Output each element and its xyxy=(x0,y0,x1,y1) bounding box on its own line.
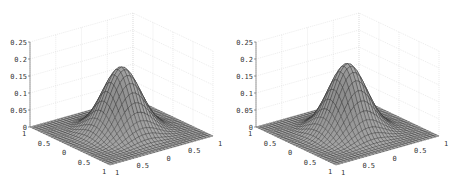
z-tick-label: 0.25 xyxy=(236,39,253,47)
y-tick-label: 1 xyxy=(218,140,222,148)
surface-plot-right: 00.050.10.150.20.2510.500.5110.500.51 xyxy=(226,0,452,184)
y-tick-label: 0.5 xyxy=(188,147,201,155)
x-tick-label: 1 xyxy=(22,130,26,138)
z-tick-label: 0.2 xyxy=(14,56,27,64)
z-tick-label: 0.1 xyxy=(240,90,253,98)
x-tick-label: 0.5 xyxy=(78,159,91,167)
x-tick-label: 0 xyxy=(62,149,66,157)
surface-mesh xyxy=(256,64,439,166)
y-tick-label: 1 xyxy=(341,169,345,177)
y-tick-label: 0 xyxy=(166,155,170,163)
surface-mesh xyxy=(30,67,213,165)
x-tick-label: 0.5 xyxy=(304,159,317,167)
x-tick-label: 0.5 xyxy=(38,140,51,148)
x-tick-label: 0 xyxy=(288,149,292,157)
z-tick-label: 0.05 xyxy=(236,107,253,115)
surface-plot-canvas: 00.050.10.150.20.2510.500.5110.500.51 xyxy=(226,0,452,184)
x-tick-label: 1 xyxy=(328,168,332,176)
z-tick-label: 0.05 xyxy=(10,107,27,115)
y-tick-label: 0.5 xyxy=(414,147,427,155)
y-tick-label: 0 xyxy=(392,155,396,163)
x-tick-label: 1 xyxy=(248,130,252,138)
z-tick-label: 0.25 xyxy=(10,39,27,47)
z-tick-label: 0.2 xyxy=(240,56,253,64)
surface-plot-left: 00.050.10.150.20.2510.500.5110.500.51 xyxy=(0,0,226,184)
surface-plot-canvas: 00.050.10.150.20.2510.500.5110.500.51 xyxy=(0,0,226,184)
z-tick-label: 0.1 xyxy=(14,90,27,98)
z-tick-label: 0.15 xyxy=(10,73,27,81)
y-tick-label: 1 xyxy=(115,169,119,177)
y-tick-label: 0.5 xyxy=(362,162,375,170)
y-tick-label: 1 xyxy=(444,140,448,148)
y-tick-label: 0.5 xyxy=(136,162,149,170)
x-tick-label: 0.5 xyxy=(264,140,277,148)
z-tick-label: 0.15 xyxy=(236,73,253,81)
x-tick-label: 1 xyxy=(102,168,106,176)
